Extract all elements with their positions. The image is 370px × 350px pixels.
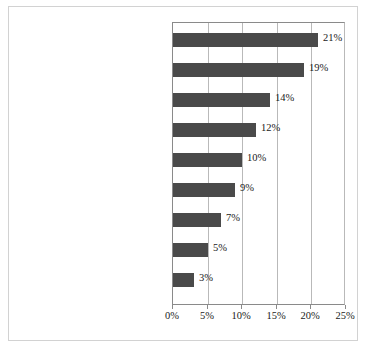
bar-value-label: 21% bbox=[323, 31, 342, 45]
bar[interactable] bbox=[173, 273, 194, 287]
bar[interactable] bbox=[173, 93, 270, 107]
bar-row: 10% bbox=[173, 145, 344, 175]
bar-row: 3% bbox=[173, 265, 344, 295]
bar[interactable] bbox=[173, 183, 235, 197]
bar-row: 21% bbox=[173, 25, 344, 55]
bar-value-label: 3% bbox=[199, 271, 213, 285]
bar-row: 14% bbox=[173, 85, 344, 115]
bar-row: 7% bbox=[173, 205, 344, 235]
xtick-0% bbox=[172, 305, 173, 309]
bar[interactable] bbox=[173, 213, 221, 227]
plot-area: 21%19%14%12%10%9%7%5%3% bbox=[172, 22, 345, 305]
bar-row: 12% bbox=[173, 115, 344, 145]
bar-value-label: 5% bbox=[213, 241, 227, 255]
bar[interactable] bbox=[173, 63, 304, 77]
bar[interactable] bbox=[173, 123, 256, 137]
bar[interactable] bbox=[173, 243, 208, 257]
bar-row: 19% bbox=[173, 55, 344, 85]
xtick-5% bbox=[207, 305, 208, 309]
bar-value-label: 10% bbox=[247, 151, 266, 165]
bar-value-label: 9% bbox=[240, 181, 254, 195]
bar-value-label: 19% bbox=[309, 61, 328, 75]
xtick-20% bbox=[310, 305, 311, 309]
xtick-25% bbox=[345, 305, 346, 309]
x-axis-label: 10% bbox=[221, 310, 261, 322]
x-axis-label: 0% bbox=[152, 310, 192, 322]
bar[interactable] bbox=[173, 33, 318, 47]
bar-value-label: 7% bbox=[226, 211, 240, 225]
bar-value-label: 12% bbox=[261, 121, 280, 135]
x-axis-label: 20% bbox=[290, 310, 330, 322]
bar[interactable] bbox=[173, 153, 242, 167]
horizontal-bar-chart: 21%19%14%12%10%9%7%5%3% 0%5%10%15%20%25%… bbox=[0, 0, 370, 350]
xtick-15% bbox=[276, 305, 277, 309]
xtick-10% bbox=[241, 305, 242, 309]
bar-value-label: 14% bbox=[275, 91, 294, 105]
bar-row: 5% bbox=[173, 235, 344, 265]
x-axis-label: 25% bbox=[325, 310, 365, 322]
bar-row: 9% bbox=[173, 175, 344, 205]
